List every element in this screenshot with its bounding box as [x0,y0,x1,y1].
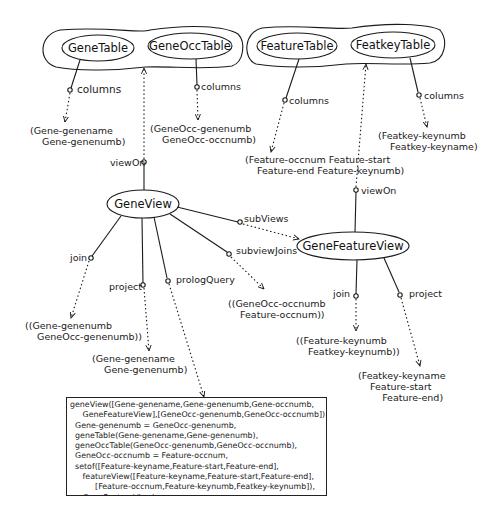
gene-view-project-label: project [109,281,142,292]
gene-view-label[interactable]: GeneView [107,197,179,211]
featkey-table-columns-label: columns [424,90,464,101]
gene-table-label[interactable]: GeneTable [62,41,134,55]
gene-view-join-value: ((Gene-genenumb GeneOcc-genenumb)) [25,320,142,342]
gene-feature-view-join-label: join [333,288,350,299]
gene-feature-view-project-label: project [409,288,442,299]
gene-view-project-value: (Gene-genename Gene-genenumb) [92,353,187,375]
gene-table-columns-label: columns [77,84,121,95]
gene-feature-view-join-value: ((Feature-keynumb Featkey-keynumb)) [296,335,400,357]
feature-table-columns-value: (Feature-occnum Feature-start Feature-en… [245,154,404,176]
featkey-table-label[interactable]: FeatkeyTable [351,38,435,52]
gene-view-prologquery-label: prologQuery [176,274,235,285]
gene-table-columns-value: (Gene-genename Gene-genenumb) [30,125,125,147]
gene-feature-view-viewon-label: viewOn [361,185,396,196]
prolog-query-box: geneView([Gene-genename,Gene-genenumb,Ge… [66,397,327,496]
gene-view-subviewjoins-label: subviewJoins [236,245,297,256]
gene-occ-table-label[interactable]: GeneOccTable [148,39,232,53]
gene-view-subviews-label: subViews [244,213,289,224]
feature-table-columns-label: columns [289,95,329,106]
gene-feature-view-project-value: (Featkey-keyname Feature-start Feature-e… [358,370,446,403]
gene-view-join-label: join [70,252,87,263]
gene-view-viewon-label: viewOn [110,157,145,168]
feature-table-label[interactable]: FeatureTable [257,39,337,53]
gene-feature-view-label[interactable]: GeneFeatureView [297,239,409,253]
gene-occ-table-columns-label: columns [201,81,241,92]
gene-occ-table-columns-value: (GeneOcc-genenumb GeneOcc-occnumb) [150,123,256,145]
gene-view-subviewjoins-value: ((GeneOcc-occnumb Feature-occnum)) [228,298,326,320]
featkey-table-columns-value: (Featkey-keynumb Featkey-keyname) [378,130,478,152]
